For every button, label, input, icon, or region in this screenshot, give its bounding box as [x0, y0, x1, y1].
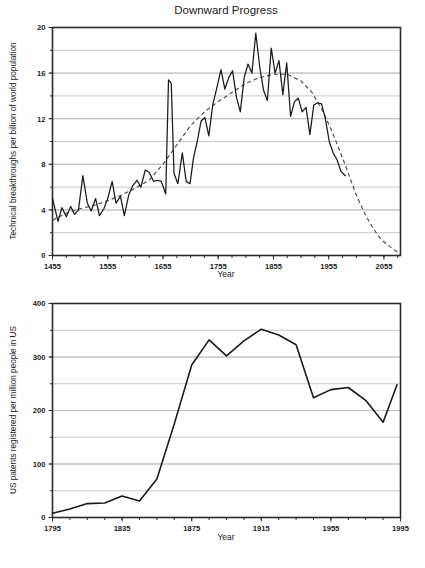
y-tick-label: 4	[41, 206, 46, 215]
y-axis-title: Technical breakthroughs per billion of w…	[9, 42, 18, 240]
tickmarks-top	[49, 28, 398, 260]
ytick-labels-top: 048121620	[37, 23, 46, 260]
x-tick-label: 1795	[44, 524, 62, 533]
y-tick-label: 8	[41, 160, 45, 169]
y-tick-label: 12	[37, 115, 45, 124]
y-tick-label: 100	[33, 460, 46, 469]
y-tick-label: 0	[41, 513, 45, 522]
chart-us-patents: 179518351875191519551995 0100200300400 Y…	[0, 290, 425, 568]
y-tick-label: 400	[33, 299, 46, 308]
x-tick-label: 1955	[320, 262, 338, 271]
x-tick-label: 1655	[155, 262, 173, 271]
x-tick-label: 1555	[99, 262, 117, 271]
y-tick-label: 0	[41, 251, 45, 260]
x-tick-label: 1875	[183, 524, 201, 533]
x-tick-label: 1995	[392, 524, 410, 533]
y-tick-label: 300	[33, 353, 46, 362]
gridlines-bottom	[53, 330, 401, 491]
x-axis-title: Year	[217, 269, 234, 279]
chart-bottom-svg: 179518351875191519551995 0100200300400 Y…	[0, 290, 425, 568]
chart-top-svg: Downward Progress 1455155516551755185519…	[0, 0, 425, 290]
x-axis-title: Year	[217, 532, 234, 542]
x-tick-label: 2055	[375, 262, 393, 271]
x-tick-label: 1855	[265, 262, 283, 271]
y-axis-title: US patents registered per million people…	[9, 325, 18, 493]
chart-title: Downward Progress	[174, 4, 278, 16]
y-tick-label: 16	[37, 69, 45, 78]
y-tick-label: 20	[37, 23, 45, 32]
x-tick-label: 1455	[44, 262, 62, 271]
figure-root: Downward Progress 1455155516551755185519…	[0, 0, 425, 568]
x-tick-label: 1955	[322, 524, 340, 533]
tickmarks-bottom	[49, 304, 401, 522]
x-tick-label: 1915	[253, 524, 271, 533]
x-tick-label: 1835	[114, 524, 132, 533]
ytick-labels-bottom: 0100200300400	[33, 299, 46, 522]
data-line-breakthroughs	[53, 33, 346, 221]
chart-technical-breakthroughs: Downward Progress 1455155516551755185519…	[0, 0, 425, 290]
y-tick-label: 200	[33, 406, 46, 415]
